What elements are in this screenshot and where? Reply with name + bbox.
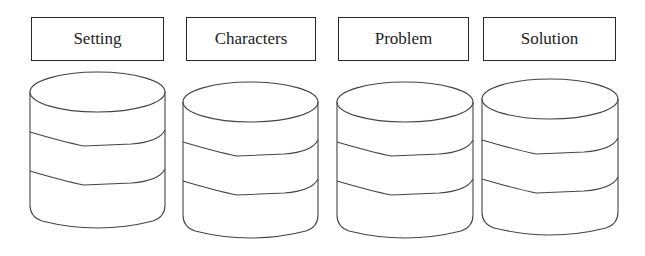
cylinder-band-line — [183, 179, 318, 195]
cylinder-band-line — [337, 179, 473, 195]
cylinder-setting — [30, 72, 165, 228]
cylinder-top — [183, 82, 318, 122]
cylinder-band-line — [482, 177, 618, 193]
cylinder-top — [30, 72, 165, 112]
cylinders — [0, 0, 645, 256]
cylinder-solution — [482, 79, 618, 235]
cylinder-band-line — [482, 138, 618, 154]
cylinder-band-line — [30, 169, 165, 185]
cylinder-band-line — [183, 140, 318, 156]
cylinder-top — [337, 82, 473, 122]
cylinder-band-line — [337, 140, 473, 156]
cylinder-problem — [337, 82, 473, 238]
cylinder-top — [482, 79, 618, 119]
cylinder-band-line — [30, 130, 165, 146]
cylinder-characters — [183, 82, 318, 238]
